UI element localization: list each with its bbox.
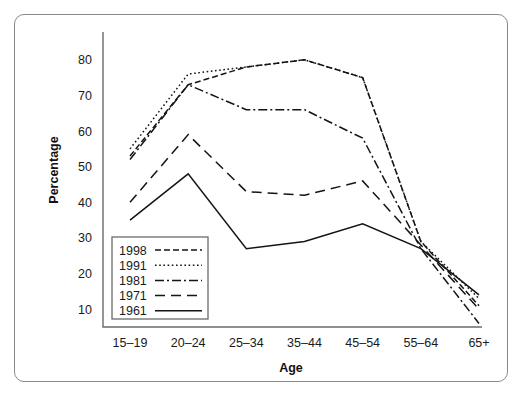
legend-label-1991: 1991 xyxy=(119,259,147,273)
x-axis-tick-labels: 15–1920–2425–3435–4445–5455–6465+ xyxy=(113,336,490,350)
y-tick-label: 60 xyxy=(78,125,92,139)
y-tick-label: 70 xyxy=(78,89,92,103)
legend-label-1981: 1981 xyxy=(119,274,147,288)
y-tick-label: 40 xyxy=(78,196,92,210)
x-tick-label: 35–44 xyxy=(287,336,322,350)
x-tick-label: 25–34 xyxy=(229,336,264,350)
plot-area: 1020304050607080 15–1920–2425–3435–4445–… xyxy=(0,0,523,397)
legend-label-1961: 1961 xyxy=(119,304,147,318)
x-tick-label: 15–19 xyxy=(113,336,148,350)
x-axis-title: Age xyxy=(279,361,303,375)
y-tick-label: 50 xyxy=(78,160,92,174)
legend-label-1971: 1971 xyxy=(119,289,147,303)
x-tick-label: 65+ xyxy=(468,336,489,350)
y-tick-label: 10 xyxy=(78,303,92,317)
x-tick-label: 45–54 xyxy=(345,336,380,350)
y-axis-title: Percentage xyxy=(47,136,61,203)
y-tick-label: 30 xyxy=(78,231,92,245)
x-tick-label: 20–24 xyxy=(171,336,206,350)
y-axis-tick-labels: 1020304050607080 xyxy=(78,53,92,316)
legend-label-1998: 1998 xyxy=(119,244,147,258)
x-tick-label: 55–64 xyxy=(403,336,438,350)
line-chart-svg: 1020304050607080 15–1920–2425–3435–4445–… xyxy=(0,0,523,397)
chart-page: 1020304050607080 15–1920–2425–3435–4445–… xyxy=(0,0,523,397)
chart-legend: 19981991198119711961 xyxy=(112,237,208,319)
y-tick-label: 20 xyxy=(78,267,92,281)
y-tick-label: 80 xyxy=(78,53,92,67)
